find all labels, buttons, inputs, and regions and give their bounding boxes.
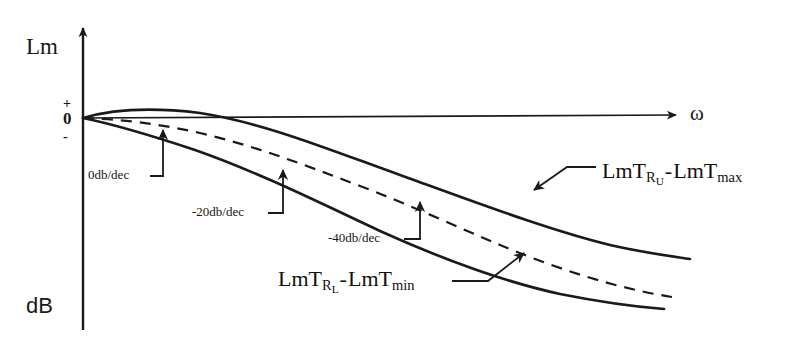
x-axis-label: ω [690,103,704,124]
tick-minus: - [63,130,68,144]
x-axis [83,115,676,118]
lower-bound-sub-nested: L [332,283,339,295]
upper-bound-lead: LmT [602,158,646,183]
lower-bound-tail-sub: min [392,277,415,293]
leader-lower-bound [452,253,524,281]
leader-upper-bound [534,167,596,190]
slope-label-minus20db: -20db/dec [192,205,244,218]
upper-bound-sub-main: RU [646,169,664,185]
lower-bound-sub-main: RL [322,277,339,293]
upper-bound-tail-sub: max [717,169,742,185]
lower-bound-tail: LmT [348,266,392,291]
slope-label-minus40db: -40db/dec [328,231,380,244]
lower-bound-lead: LmT [278,266,322,291]
y-axis-label: Lm [26,35,58,58]
lower-bound-separator: - [339,266,348,291]
upper-bound-label: LmTRU-LmTmax [602,160,742,182]
leader-slope-20 [268,170,283,213]
bode-diagram: Lm dB ω + 0 - 0db/dec -20db/dec -40db/de… [0,0,799,348]
y-axis-unit-label: dB [26,295,53,317]
lower-bound-label: LmTRL-LmTmin [278,268,415,290]
upper-bound-sub-nested: U [656,175,664,187]
upper-bound-separator: - [664,158,673,183]
upper-bound-tail: LmT [673,158,717,183]
tick-zero: 0 [63,110,72,127]
curve-upper-bound [83,110,690,259]
slope-label-0db: 0db/dec [88,168,129,181]
